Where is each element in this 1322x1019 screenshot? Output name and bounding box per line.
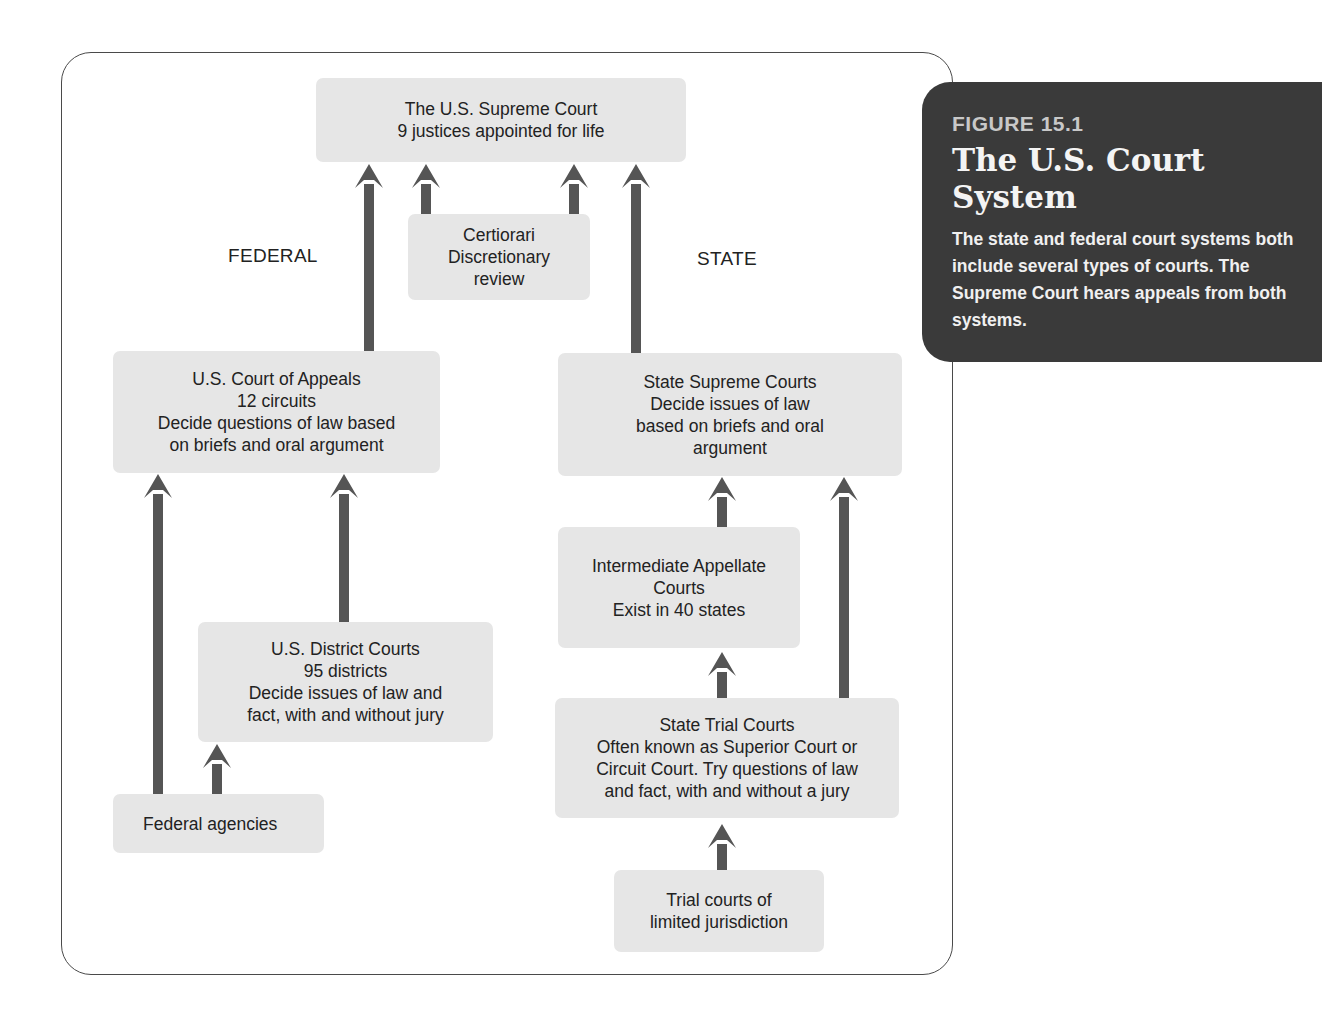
node-state-trial-courts-text: State Trial Courts Often known as Superi… <box>596 714 858 802</box>
node-supreme-court-text: The U.S. Supreme Court 9 justices appoin… <box>397 98 604 142</box>
node-intermediate-appellate: Intermediate Appellate Courts Exist in 4… <box>558 527 800 648</box>
node-district-courts-text: U.S. District Courts 95 districts Decide… <box>247 638 443 726</box>
node-limited-jurisdiction: Trial courts of limited jurisdiction <box>614 870 824 952</box>
node-supreme-court: The U.S. Supreme Court 9 justices appoin… <box>316 78 686 162</box>
node-court-of-appeals-text: U.S. Court of Appeals 12 circuits Decide… <box>158 368 395 456</box>
figure-number: FIGURE 15.1 <box>952 112 1322 136</box>
node-intermediate-appellate-text: Intermediate Appellate Courts Exist in 4… <box>592 555 766 621</box>
figure-caption: FIGURE 15.1 The U.S. Court System The st… <box>922 82 1322 362</box>
node-state-supreme-courts: State Supreme Courts Decide issues of la… <box>558 353 902 476</box>
figure-description: The state and federal court systems both… <box>952 226 1312 334</box>
node-certiorari: Certiorari Discretionary review <box>408 214 590 300</box>
node-certiorari-text: Certiorari Discretionary review <box>448 224 550 290</box>
node-federal-agencies-text: Federal agencies <box>143 813 277 835</box>
node-district-courts: U.S. District Courts 95 districts Decide… <box>198 622 493 742</box>
figure-title: The U.S. Court System <box>952 142 1322 216</box>
state-label: STATE <box>697 248 757 270</box>
node-state-supreme-courts-text: State Supreme Courts Decide issues of la… <box>636 371 824 459</box>
federal-label: FEDERAL <box>228 245 318 267</box>
node-federal-agencies: Federal agencies <box>113 794 324 853</box>
node-state-trial-courts: State Trial Courts Often known as Superi… <box>555 698 899 818</box>
node-limited-jurisdiction-text: Trial courts of limited jurisdiction <box>650 889 788 933</box>
node-court-of-appeals: U.S. Court of Appeals 12 circuits Decide… <box>113 351 440 473</box>
